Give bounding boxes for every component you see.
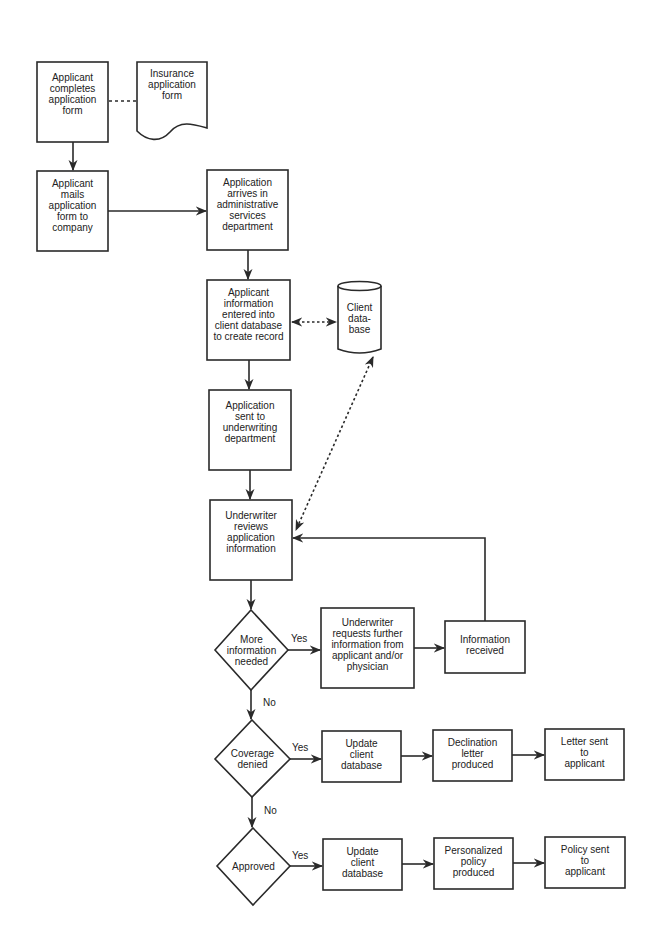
node-uw-reviews: Underwriter reviews application informat… [210,500,292,564]
node-update-db-2: Update client database [323,839,402,885]
node-personalized: Personalized policy produced [434,838,513,884]
edge-label-yes-more-info: Yes [291,633,307,644]
edge-label-no-more-info: No [263,697,276,708]
node-sent-uw: Application sent to underwriting departm… [209,390,291,454]
node-uw-requests: Underwriter requests further information… [321,608,414,680]
node-mails: Applicant mails application form to comp… [37,171,108,239]
node-form-doc: Insurance application form [137,64,207,104]
node-declination: Declination letter produced [433,730,512,776]
node-more-info: More information needed [215,625,288,675]
node-coverage-denied: Coverage denied [215,740,290,778]
node-letter-sent: Letter sent to applicant [545,729,624,775]
node-approved: Approved [217,856,290,876]
flowchart-canvas [0,0,657,948]
edge-label-no-coverage: No [264,805,277,816]
edge-label-yes-coverage: Yes [292,742,308,753]
node-arrives: Application arrives in administrative se… [207,170,288,238]
node-info-received: Information received [445,621,525,669]
node-client-db: Client data- base [338,293,381,343]
node-policy-sent: Policy sent to applicant [545,837,625,883]
edge-label-yes-approved: Yes [292,850,308,861]
node-entered: Applicant information entered into clien… [207,280,290,348]
node-completes: Applicant completes application form [37,62,108,126]
node-update-db-1: Update client database [322,731,401,777]
